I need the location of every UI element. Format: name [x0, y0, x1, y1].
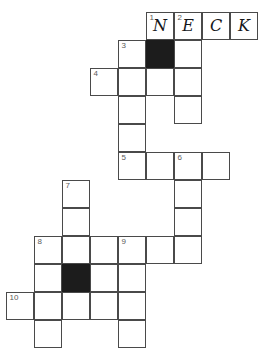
- cell-r11c4[interactable]: [118, 320, 146, 348]
- clue-number-2: 2: [178, 14, 182, 22]
- cell-r0c6[interactable]: 2E: [174, 12, 202, 40]
- cell-r10c4[interactable]: [118, 292, 146, 320]
- cell-r8c2[interactable]: [62, 236, 90, 264]
- clue-number-4: 4: [94, 70, 98, 78]
- cell-r9c1[interactable]: [34, 264, 62, 292]
- cell-r6c2[interactable]: 7: [62, 180, 90, 208]
- cell-r10c2[interactable]: [62, 292, 90, 320]
- cell-r3c6[interactable]: [174, 96, 202, 124]
- cell-r0c7[interactable]: C: [202, 12, 230, 40]
- cell-r7c2[interactable]: [62, 208, 90, 236]
- cell-r8c1[interactable]: 8: [34, 236, 62, 264]
- cell-r11c1[interactable]: [34, 320, 62, 348]
- clue-number-10: 10: [10, 294, 19, 302]
- cell-r2c5[interactable]: [146, 68, 174, 96]
- clue-number-8: 8: [38, 238, 42, 246]
- cell-r9c2: [62, 264, 90, 292]
- cell-r5c5[interactable]: [146, 152, 174, 180]
- cell-r1c6[interactable]: [174, 40, 202, 68]
- cell-r2c3[interactable]: 4: [90, 68, 118, 96]
- cell-r2c4[interactable]: [118, 68, 146, 96]
- cell-r0c5[interactable]: 1N: [146, 12, 174, 40]
- cell-r7c6[interactable]: [174, 208, 202, 236]
- cell-letter: K: [231, 18, 257, 34]
- cell-letter: N: [147, 18, 173, 34]
- clue-number-6: 6: [178, 154, 182, 162]
- cell-r8c3[interactable]: [90, 236, 118, 264]
- clue-number-7: 7: [66, 182, 70, 190]
- cell-r2c6[interactable]: [174, 68, 202, 96]
- cell-r10c0[interactable]: 10: [6, 292, 34, 320]
- cell-r10c3[interactable]: [90, 292, 118, 320]
- cell-letter: C: [203, 18, 229, 34]
- clue-number-1: 1: [150, 14, 154, 22]
- cell-letter: E: [175, 18, 201, 34]
- cell-r8c5[interactable]: [146, 236, 174, 264]
- cell-r9c4[interactable]: [118, 264, 146, 292]
- clue-number-5: 5: [122, 154, 126, 162]
- cell-r10c1[interactable]: [34, 292, 62, 320]
- clue-number-9: 9: [122, 238, 126, 246]
- cell-r3c4[interactable]: [118, 96, 146, 124]
- clue-number-3: 3: [122, 42, 126, 50]
- cell-r6c6[interactable]: [174, 180, 202, 208]
- cell-r8c4[interactable]: 9: [118, 236, 146, 264]
- cell-r8c6[interactable]: [174, 236, 202, 264]
- cell-r1c4[interactable]: 3: [118, 40, 146, 68]
- cell-r1c5: [146, 40, 174, 68]
- cell-r5c7[interactable]: [202, 152, 230, 180]
- cell-r5c6[interactable]: 6: [174, 152, 202, 180]
- cell-r9c3[interactable]: [90, 264, 118, 292]
- cell-r0c8[interactable]: K: [230, 12, 258, 40]
- cell-r4c4[interactable]: [118, 124, 146, 152]
- cell-r5c4[interactable]: 5: [118, 152, 146, 180]
